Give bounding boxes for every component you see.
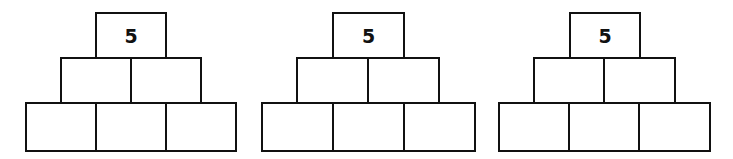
pyramid-3-middle-brick-1[interactable]: [533, 57, 605, 104]
number-pyramid-3: 5: [0, 0, 733, 159]
pyramid-3-bottom-brick-2[interactable]: [568, 102, 640, 152]
pyramid-3-bottom-brick-1[interactable]: [498, 102, 570, 152]
pyramid-3-top-brick: 5: [569, 12, 641, 59]
pyramid-3-bottom-brick-3[interactable]: [638, 102, 711, 152]
pyramid-3-middle-brick-2[interactable]: [603, 57, 676, 104]
